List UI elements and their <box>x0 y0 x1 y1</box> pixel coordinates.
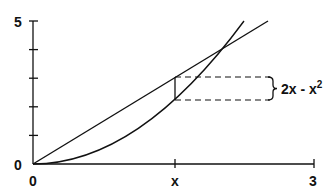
brace-icon <box>268 77 277 100</box>
x-label-x: x <box>171 173 179 189</box>
y-label-5: 5 <box>14 14 22 30</box>
annotation-label: 2x - x2 <box>281 79 323 97</box>
x-label-3: 3 <box>309 173 317 189</box>
line-2x <box>33 21 268 164</box>
x-label-0: 0 <box>29 173 37 189</box>
parabola-x-squared <box>33 21 244 164</box>
chart: 5 0 0 x 3 2x - x2 <box>0 0 333 194</box>
y-label-0: 0 <box>14 157 22 173</box>
